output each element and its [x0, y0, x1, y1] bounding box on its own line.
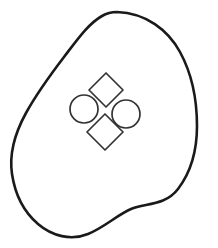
left-circle-shape	[70, 95, 98, 123]
line-drawing-figure: Line drawing of an irregular closed blob…	[0, 0, 218, 248]
right-circle-shape	[112, 100, 140, 128]
figure-canvas: Line drawing of an irregular closed blob…	[0, 0, 218, 248]
